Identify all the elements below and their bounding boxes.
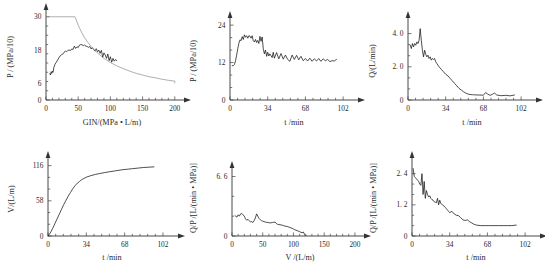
x-tick-label: 34: [264, 104, 272, 113]
series-apparent-lugeon-vs-time: [413, 168, 516, 225]
chart-panel-4: 03468102058116t /minV/(L/m): [0, 136, 190, 272]
x-tick-label: 34: [83, 240, 91, 249]
axes: [44, 3, 191, 102]
x-axis-ticks: 050100150200: [44, 96, 180, 112]
x-tick-label: 102: [516, 104, 527, 113]
x-tick-label: 150: [137, 104, 148, 113]
series-cumulative-volume-vs-time: [48, 167, 154, 236]
x-tick-label: 68: [121, 240, 129, 249]
chart-panel-3: 0346810202. 04. 0t /minQ/(L/min): [362, 0, 545, 136]
y-tick-label: 116: [33, 161, 44, 170]
x-axis-ticks: 03468102: [410, 232, 531, 248]
x-axis-ticks: 03468102: [228, 96, 349, 112]
y-axis-ticks: 02. 04. 0: [392, 29, 411, 104]
y-tick-label: 30: [34, 12, 42, 21]
y-tick-label: 24: [218, 21, 226, 30]
y-axis-title: Q/(L/min): [368, 44, 377, 78]
grouting-results-figure: 050100150200061830GIN/(MPa • L/m)P / (MP…: [0, 0, 545, 272]
axes: [46, 151, 185, 238]
x-tick-label: 0: [410, 240, 414, 249]
y-axis-title: P / (MPa/10): [6, 36, 15, 78]
x-axis-title: t /min: [466, 253, 485, 262]
x-axis-ticks: 050100150200: [230, 232, 361, 248]
y-tick-label: 0: [404, 232, 408, 241]
x-tick-label: 0: [44, 104, 48, 113]
y-axis-title: Q/P /[L/(min • MPa)]: [369, 163, 378, 233]
x-tick-label: 50: [259, 240, 267, 249]
x-tick-label: 68: [484, 240, 492, 249]
x-tick-label: 200: [349, 240, 360, 249]
x-tick-label: 50: [74, 104, 82, 113]
x-tick-label: 102: [338, 104, 349, 113]
y-tick-label: 0: [222, 96, 226, 105]
y-axis-ticks: 01. 22. 4: [396, 169, 415, 240]
x-tick-label: 34: [446, 240, 454, 249]
x-axis-title: V /(L/m): [285, 253, 314, 262]
series-apparent-lugeon-vs-volume: [235, 213, 305, 235]
y-tick-label: 0: [400, 96, 404, 105]
y-tick-label: 0: [40, 232, 44, 241]
series-gin-envelope-hyperbola: [75, 17, 175, 81]
y-axis-title: P / (MPa/10): [189, 40, 198, 82]
x-axis-ticks: 03468102: [406, 96, 527, 112]
x-tick-label: 0: [406, 104, 410, 113]
chart-panel-2: 0346810201224t /minP / (MPa/10): [182, 0, 364, 136]
y-tick-label: 4. 0: [392, 29, 403, 38]
y-tick-label: 6. 6: [216, 172, 227, 181]
y-tick-label: 0: [38, 96, 42, 105]
y-tick-label: 12: [218, 58, 226, 67]
y-tick-label: 18: [34, 46, 42, 55]
x-tick-label: 150: [319, 240, 330, 249]
chart-panel-6: 0346810201. 22. 4t /minQ/P /[L/(min • MP…: [362, 136, 545, 272]
y-tick-label: 58: [36, 196, 44, 205]
y-tick-label: 2. 4: [396, 169, 407, 178]
series-flow-rate-vs-time: [410, 29, 514, 96]
y-tick-label: 0: [224, 232, 228, 241]
x-tick-label: 100: [105, 104, 116, 113]
y-axis-ticks: 058116: [33, 161, 52, 240]
x-tick-label: 100: [288, 240, 299, 249]
x-tick-label: 68: [302, 104, 310, 113]
y-tick-label: 1. 2: [396, 200, 407, 209]
x-axis-title: GIN/(MPa • L/m): [83, 118, 142, 127]
x-axis-title: t /min: [462, 118, 481, 127]
x-tick-label: 68: [480, 104, 488, 113]
x-tick-label: 34: [442, 104, 450, 113]
axes: [228, 11, 365, 102]
series-pressure-vs-time: [232, 35, 336, 66]
y-axis-ticks: 061830: [34, 12, 49, 104]
y-tick-label: 2. 0: [392, 62, 403, 71]
series-grouting-pressure-path: [50, 45, 117, 76]
x-axis-title: t /min: [284, 118, 303, 127]
x-tick-label: 200: [169, 104, 180, 113]
x-tick-label: 102: [157, 240, 168, 249]
y-tick-label: 6: [38, 79, 42, 88]
axes: [230, 161, 371, 238]
chart-panel-1: 050100150200061830GIN/(MPa • L/m)P / (MP…: [0, 0, 190, 136]
x-tick-label: 0: [230, 240, 234, 249]
x-tick-label: 102: [520, 240, 531, 249]
x-axis-title: t /min: [102, 253, 121, 262]
y-axis-title: V/(L/m): [7, 185, 16, 213]
y-axis-ticks: 06. 6: [216, 172, 235, 240]
y-axis-title: Q/P /[L/(min • MPa)]: [189, 163, 198, 233]
axes: [406, 11, 543, 102]
chart-panel-5: 05010015020006. 6V /(L/m)Q/P /[L/(min • …: [182, 136, 364, 272]
x-tick-label: 0: [46, 240, 50, 249]
x-tick-label: 0: [228, 104, 232, 113]
x-axis-ticks: 03468102: [46, 232, 169, 248]
y-axis-ticks: 01224: [218, 21, 233, 105]
